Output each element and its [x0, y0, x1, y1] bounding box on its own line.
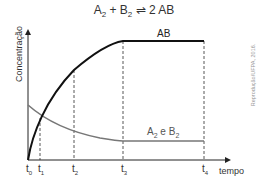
dashed-guides — [40, 41, 204, 160]
x-axis-label: tempo — [219, 166, 244, 176]
x-tick-t0: t0 — [26, 163, 32, 176]
series-ab-line — [28, 41, 204, 160]
x-tick-t4: t4 — [202, 163, 208, 176]
x-tick-t3: t3 — [121, 163, 127, 176]
chart-plot-area — [0, 0, 268, 187]
x-tick-t2: t2 — [72, 163, 78, 176]
y-axis-label: Concentração — [14, 26, 24, 82]
image-credit: Reprodução/UFPA, 2016. — [250, 44, 256, 107]
series-label-a2-b2: A2 e B2 — [147, 126, 179, 139]
series-label-ab: AB — [157, 28, 170, 39]
x-tick-t1: t1 — [38, 163, 44, 176]
